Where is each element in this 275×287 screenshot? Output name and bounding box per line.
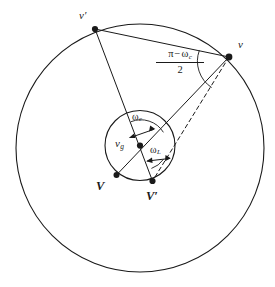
fraction-pi: π [168,48,173,59]
line-vprime-to-Vprime [95,29,153,181]
fraction-numerator: π−ωc [156,48,204,62]
vertex-dot-center [137,142,143,148]
diagram-svg [0,0,275,287]
label-omega-c: ωc [132,112,142,123]
label-omega-l-base: ω [150,144,157,155]
label-v-prime-top: v′ [79,10,86,21]
label-v-g-subscript: g [120,142,124,151]
label-V-prime-bottom: V′ [146,190,158,203]
dashed-line-v-to-Vprime [153,57,230,181]
label-v-g: vg [115,138,124,150]
label-V-prime-bottom-prime: ′ [154,189,158,203]
label-omega-l: ωL [150,145,161,156]
label-omega-c-base: ω [132,111,139,122]
label-v-right: v [238,39,243,50]
vertex-dot-V [114,172,120,178]
angle-arc-omega-l [152,160,164,169]
label-omega-c-subscript: c [139,115,142,122]
label-v-prime-top-prime: ′ [84,9,86,21]
vertex-dot-Vprime [149,178,155,184]
label-omega-l-subscript: L [157,148,161,155]
fraction-denominator: 2 [156,63,204,75]
vertex-dot-v [226,54,233,61]
fraction-omega-subscript: c [189,53,192,61]
fraction-minus: − [174,48,180,59]
vertex-dot-vprime [92,26,98,32]
label-angle-fraction: π−ωc 2 [156,48,204,75]
fraction-omega: ω [181,48,188,59]
figure-container: v′ v π−ωc 2 ωc ωL vg V V′ [0,0,275,287]
label-V-left: V [96,180,104,193]
